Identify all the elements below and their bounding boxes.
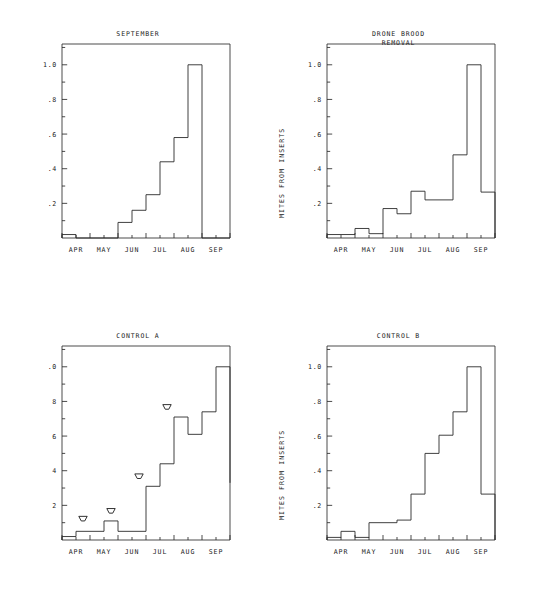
y-tick-label: .0 [48, 363, 57, 371]
x-tick-label: MAY [97, 246, 111, 254]
x-tick-label: JUL [418, 246, 432, 254]
panel-control-a: CONTROL A 2468.0APRMAYJUNJULAUGSEP [44, 328, 232, 572]
y-tick-label: 4 [52, 467, 57, 475]
treatment-arrow-icon [107, 509, 115, 514]
treatment-arrow-icon [135, 474, 143, 479]
x-tick-label: JUN [390, 246, 404, 254]
panel-september: SEPTEMBER .2.4.6.81.0APRMAYJUNJULAUGSEP [44, 26, 232, 270]
y-tick-label: .6 [313, 433, 322, 441]
y-tick-label: .2 [48, 200, 57, 208]
y-axis-title-control-b: MITES FROM INSERTS [278, 430, 286, 520]
x-tick-label: JUN [125, 548, 139, 556]
plot-drone-brood-removal: .2.4.6.81.0APRMAYJUNJULAUGSEP [300, 26, 497, 270]
y-tick-label: 1.0 [43, 61, 57, 69]
figure-panel-grid: SEPTEMBER .2.4.6.81.0APRMAYJUNJULAUGSEP … [0, 0, 540, 598]
x-tick-label: AUG [181, 246, 195, 254]
x-tick-label: APR [69, 246, 83, 254]
x-tick-label: SEP [474, 548, 488, 556]
histogram-step-outline [62, 367, 230, 540]
y-tick-label: .6 [313, 131, 322, 139]
y-tick-label: .2 [313, 200, 322, 208]
y-tick-label: .4 [313, 165, 322, 173]
y-tick-label: 6 [52, 433, 57, 441]
histogram-step-outline [327, 367, 495, 540]
x-tick-label: APR [69, 548, 83, 556]
y-tick-label: .2 [313, 502, 322, 510]
panel-control-b: CONTROL B .2.4.6.81.0APRMAYJUNJULAUGSEP … [300, 328, 497, 572]
x-tick-label: JUL [418, 548, 432, 556]
x-tick-label: AUG [446, 548, 460, 556]
x-tick-label: APR [334, 548, 348, 556]
y-tick-label: .8 [48, 96, 57, 104]
histogram-step-outline [62, 65, 230, 238]
x-tick-label: SEP [474, 246, 488, 254]
y-tick-label: .4 [48, 165, 57, 173]
x-tick-label: JUN [125, 246, 139, 254]
y-tick-label: .4 [313, 467, 322, 475]
x-tick-label: SEP [209, 246, 223, 254]
y-tick-label: .8 [313, 96, 322, 104]
x-tick-label: MAY [362, 246, 376, 254]
x-tick-label: APR [334, 246, 348, 254]
y-tick-label: .8 [313, 398, 322, 406]
y-axis-title-drone-brood-removal: MITES FROM INSERTS [278, 128, 286, 218]
treatment-arrow-icon [163, 405, 171, 410]
x-tick-label: JUL [153, 246, 167, 254]
y-tick-label: .6 [48, 131, 57, 139]
x-tick-label: MAY [97, 548, 111, 556]
plot-control-a: 2468.0APRMAYJUNJULAUGSEP [44, 328, 232, 572]
y-tick-label: 1.0 [308, 61, 322, 69]
x-tick-label: JUL [153, 548, 167, 556]
panel-drone-brood-removal: DRONE BROOD REMOVAL .2.4.6.81.0APRMAYJUN… [300, 26, 497, 270]
x-tick-label: AUG [181, 548, 195, 556]
y-tick-label: 8 [52, 398, 57, 406]
y-tick-label: 1.0 [308, 363, 322, 371]
plot-september: .2.4.6.81.0APRMAYJUNJULAUGSEP [44, 26, 232, 270]
x-tick-label: JUN [390, 548, 404, 556]
x-tick-label: SEP [209, 548, 223, 556]
x-tick-label: MAY [362, 548, 376, 556]
plot-control-b: .2.4.6.81.0APRMAYJUNJULAUGSEP [300, 328, 497, 572]
histogram-step-outline [327, 65, 495, 238]
treatment-arrow-icon [79, 516, 87, 521]
x-tick-label: AUG [446, 246, 460, 254]
y-tick-label: 2 [52, 502, 57, 510]
